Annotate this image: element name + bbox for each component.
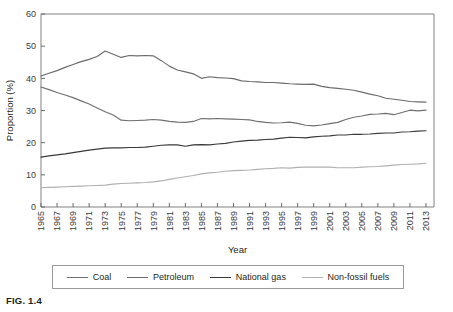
x-tick-label: 2013 [421,211,431,231]
y-tick-label: 60 [26,9,36,19]
line-chart: 0102030405060196519671969197119731975197… [0,0,453,265]
x-tick-label: 1993 [261,211,271,231]
y-tick-label: 10 [26,170,36,180]
x-tick-label: 1979 [149,211,159,231]
legend-item-label: Coal [93,272,112,282]
chart-tick-labels: 0102030405060196519671969197119731975197… [26,9,431,231]
x-tick-label: 2005 [357,211,367,231]
x-tick-label: 1987 [213,211,223,231]
y-axis-title: Proportion (%) [4,80,15,141]
x-tick-label: 2011 [405,211,415,230]
x-tick-label: 1985 [197,211,207,231]
x-tick-label: 1973 [100,211,110,231]
x-tick-label: 2001 [325,211,335,231]
x-tick-label: 1989 [229,211,239,231]
series-line-non-fossil-fuels [41,163,426,187]
x-tick-label: 2007 [373,211,383,231]
x-tick-label: 2003 [341,211,351,231]
chart-legend: CoalPetroleumNational gasNon-fossil fuel… [52,265,404,289]
series-line-petroleum [41,51,426,102]
x-axis-title: Year [228,244,247,255]
x-tick-label: 1997 [293,211,303,231]
x-tick-label: 1971 [84,211,94,231]
series-line-national-gas [41,131,426,157]
x-tick-label: 1983 [181,211,191,231]
legend-swatch-line-icon [210,277,231,278]
x-tick-label: 2009 [389,211,399,231]
chart-axes [41,14,434,207]
x-tick-label: 1981 [165,211,175,231]
y-tick-label: 40 [26,74,36,84]
chart-series [41,51,426,188]
y-tick-label: 20 [26,138,36,148]
legend-item[interactable]: Coal [67,272,112,282]
figure-caption: FIG. 1.4 [6,295,42,306]
series-line-coal [41,87,426,126]
legend-swatch-line-icon [67,277,88,278]
y-tick-label: 50 [26,41,36,51]
x-tick-label: 1969 [68,211,78,231]
x-tick-label: 1965 [36,211,46,231]
legend-item-label: Petroleum [153,272,194,282]
legend-item-label: Non-fossil fuels [328,272,390,282]
y-tick-label: 0 [31,202,36,212]
x-tick-label: 1995 [277,211,287,231]
x-tick-label: 1975 [117,211,127,231]
legend-swatch-line-icon [127,277,148,278]
figure-container: 0102030405060196519671969197119731975197… [0,0,453,312]
legend-item[interactable]: National gas [210,272,286,282]
y-tick-label: 30 [26,106,36,116]
legend-item[interactable]: Non-fossil fuels [302,272,390,282]
legend-swatch-line-icon [302,277,323,278]
x-tick-label: 1967 [52,211,62,231]
x-tick-label: 1977 [133,211,143,231]
x-tick-label: 1991 [245,211,255,231]
legend-item-label: National gas [236,272,286,282]
legend-item[interactable]: Petroleum [127,272,194,282]
x-tick-label: 1999 [309,211,319,231]
